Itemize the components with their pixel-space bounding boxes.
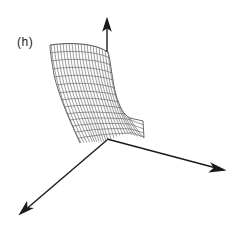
axes (20, 19, 224, 214)
mesh-v-lines (50, 43, 144, 138)
surface-plot-figure: (h) (0, 0, 240, 228)
right-axis-arrowhead-icon (211, 164, 225, 172)
mesh-u-lines (51, 43, 144, 145)
surface-plot (0, 0, 240, 228)
wireframe-surface (50, 43, 144, 145)
vertical-axis-arrowhead-icon (104, 19, 111, 30)
front-axis-arrowhead-icon (20, 203, 32, 214)
front-axis-line (24, 140, 107, 211)
right-axis-line (107, 139, 220, 169)
